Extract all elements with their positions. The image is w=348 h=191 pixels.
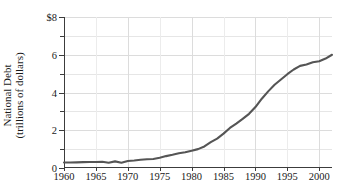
x-tick-label: 1965 (85, 171, 106, 182)
x-tick-label: 1995 (277, 171, 298, 182)
national-debt-path (64, 55, 332, 163)
x-tick-label: 1975 (149, 171, 170, 182)
x-tick-label: 1980 (181, 171, 202, 182)
y-tick-label: 6 (52, 49, 57, 60)
y-axis-title-line-2: (trillions of dollars) (13, 52, 26, 138)
y-tick-label: 2 (52, 125, 57, 136)
plot-area: $864201960196519701975198019851990199520… (64, 17, 332, 168)
y-tick-label: 4 (52, 87, 57, 98)
national-debt-line-chart: National Debt (trillions of dollars) $86… (0, 0, 348, 191)
y-axis-title: National Debt (trillions of dollars) (0, 0, 40, 191)
y-tick-label: $8 (47, 12, 58, 23)
data-series-line (64, 17, 332, 168)
x-tick-label: 1960 (54, 171, 75, 182)
x-tick-label: 1985 (213, 171, 234, 182)
x-tick-label: 1990 (245, 171, 266, 182)
x-tick-label: 1970 (117, 171, 138, 182)
x-tick-label: 2000 (309, 171, 330, 182)
y-axis-title-line-1: National Debt (1, 52, 14, 138)
